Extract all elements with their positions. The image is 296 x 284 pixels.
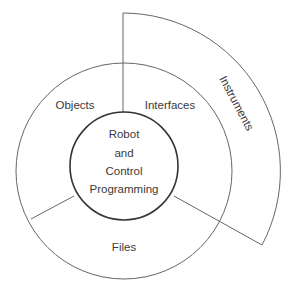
center-line-3: Control	[105, 165, 142, 177]
diagram-canvas: Robot and Control Programming Objects In…	[0, 0, 296, 284]
objects-files-divider	[31, 196, 74, 219]
center-line-2: and	[114, 147, 133, 159]
center-line-4: Programming	[89, 183, 158, 195]
segment-label-objects: Objects	[56, 99, 95, 111]
segment-label-files: Files	[112, 241, 137, 253]
center-line-1: Robot	[109, 128, 140, 140]
segment-label-interfaces: Interfaces	[145, 99, 196, 111]
instruments-bottom-divider	[174, 196, 262, 245]
arc-label-instruments: Instruments	[217, 74, 256, 133]
